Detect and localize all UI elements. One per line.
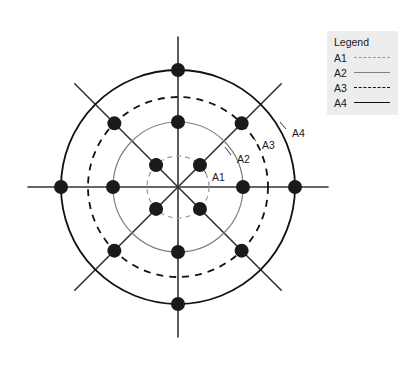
legend-swatch-a2 [354, 72, 390, 73]
legend-swatch-a4 [354, 102, 390, 103]
radial-network-figure: A1A2A3A4 Legend A1A2A3A4 [0, 0, 406, 370]
node-a4-270deg[interactable] [171, 297, 185, 311]
ring-label-a2: A2 [237, 153, 250, 165]
legend-row-a4[interactable]: A4 [334, 95, 392, 110]
legend-key-a3: A3 [334, 82, 351, 94]
legend-swatch-a1 [354, 57, 390, 58]
node-a1-135deg[interactable] [149, 158, 163, 172]
node-a4-0deg[interactable] [288, 180, 302, 194]
node-a2-270deg[interactable] [171, 245, 185, 259]
legend-key-a1: A1 [334, 52, 351, 64]
node-a4-90deg[interactable] [171, 63, 185, 77]
node-a1-315deg[interactable] [193, 202, 207, 216]
legend-swatch-a3 [354, 87, 390, 88]
leader-a3 [250, 134, 256, 141]
leader-a4 [280, 122, 286, 129]
node-a3-225deg[interactable] [107, 244, 121, 258]
legend-row-a2[interactable]: A2 [334, 65, 392, 80]
legend-key-a4: A4 [334, 97, 351, 109]
ray-group [28, 37, 328, 337]
node-a2-90deg[interactable] [171, 115, 185, 129]
node-a3-135deg[interactable] [107, 116, 121, 130]
ring-label-a3: A3 [262, 139, 275, 151]
legend-row-a3[interactable]: A3 [334, 80, 392, 95]
node-a2-180deg[interactable] [106, 180, 120, 194]
legend-key-a2: A2 [334, 67, 351, 79]
node-a3-315deg[interactable] [235, 244, 249, 258]
node-a1-45deg[interactable] [193, 158, 207, 172]
ring-label-a1: A1 [212, 171, 225, 183]
legend-rows: A1A2A3A4 [334, 50, 392, 110]
node-a4-180deg[interactable] [54, 180, 68, 194]
legend: Legend A1A2A3A4 [327, 31, 398, 115]
ring-label-a4: A4 [292, 127, 305, 139]
node-a1-225deg[interactable] [149, 202, 163, 216]
legend-row-a1[interactable]: A1 [334, 50, 392, 65]
node-a2-0deg[interactable] [236, 180, 250, 194]
legend-title: Legend [334, 36, 392, 49]
node-a3-45deg[interactable] [235, 116, 249, 130]
